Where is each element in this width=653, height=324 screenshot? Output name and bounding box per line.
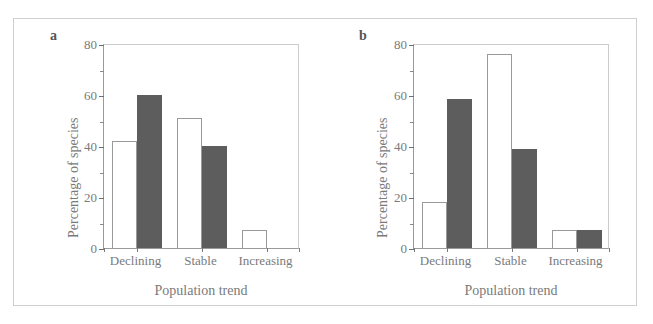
panel-b-plot-area: 020406080 [413,44,609,249]
y-tick-major [409,96,414,97]
y-tick-minor [100,224,104,225]
y-tick-label: 60 [71,89,97,102]
y-tick-label: 20 [381,191,407,204]
bar-stable-open [177,118,202,248]
panel-a-x-tick-labels: DecliningStableIncreasing [0,253,326,271]
x-tick [104,248,105,252]
y-tick-minor [410,224,414,225]
bar-declining-open [422,202,447,248]
panel-a-y-axis-title: Percentage of species [66,118,82,239]
bar-declining-filled [447,99,472,248]
x-tick-label-declining: Declining [420,253,471,269]
y-tick-minor [100,71,104,72]
y-tick-major [99,147,104,148]
y-tick-label: 40 [71,140,97,153]
y-tick-major [409,198,414,199]
y-tick-label: 60 [381,89,407,102]
y-tick-major [99,96,104,97]
x-tick-label-declining: Declining [110,253,161,269]
y-tick-label: 80 [381,38,407,51]
y-tick-minor [410,71,414,72]
panel-a-label: a [50,28,57,44]
y-tick-minor [410,122,414,123]
y-tick-major [409,45,414,46]
y-tick-label: 40 [381,140,407,153]
y-tick-major [409,147,414,148]
x-tick-label-stable: Stable [184,253,217,269]
x-tick [609,248,610,252]
x-tick-label-stable: Stable [494,253,527,269]
bar-increasing-open [242,230,267,248]
bar-stable-filled [202,146,227,248]
figure-root: a Percentage of species 020406080 Declin… [0,0,653,324]
x-tick [299,248,300,252]
x-tick-label-increasing: Increasing [238,253,292,269]
x-tick [137,248,138,252]
panel-b: b Percentage of species 020406080 Declin… [327,0,653,324]
y-tick-major [99,198,104,199]
bar-increasing-open [552,230,577,248]
panel-a-plot-area: 020406080 [103,44,299,249]
panel-b-y-axis-title: Percentage of species [375,118,391,239]
y-tick-minor [410,173,414,174]
panel-b-label: b [359,28,367,44]
panel-a: a Percentage of species 020406080 Declin… [0,0,326,324]
bar-declining-open [112,141,137,248]
bar-stable-filled [512,149,537,248]
bar-increasing-filled [577,230,602,248]
x-tick-label-increasing: Increasing [548,253,602,269]
bar-declining-filled [137,95,162,248]
x-tick [414,248,415,252]
y-tick-major [99,45,104,46]
y-tick-minor [100,122,104,123]
x-tick [577,248,578,252]
x-tick [447,248,448,252]
y-tick-label: 20 [71,191,97,204]
x-tick [202,248,203,252]
x-tick [512,248,513,252]
panel-b-x-tick-labels: DecliningStableIncreasing [327,253,653,271]
y-tick-label: 80 [71,38,97,51]
panel-b-x-axis-title: Population trend [465,283,558,299]
bar-stable-open [487,54,512,248]
x-tick [267,248,268,252]
panel-a-x-axis-title: Population trend [155,283,248,299]
y-tick-minor [100,173,104,174]
